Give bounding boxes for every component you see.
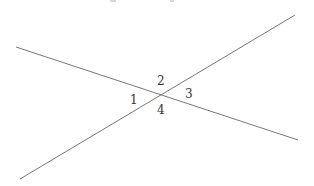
angle-label-2: 2 [157, 75, 165, 87]
cropped-text-artifact [110, 0, 116, 2]
line-a [16, 47, 298, 140]
diagram-canvas [0, 0, 314, 186]
angle-label-1: 1 [130, 94, 138, 106]
angle-label-3: 3 [185, 88, 193, 100]
line-b [20, 15, 295, 179]
cropped-text-artifact [170, 0, 174, 2]
angle-label-4: 4 [157, 104, 165, 116]
